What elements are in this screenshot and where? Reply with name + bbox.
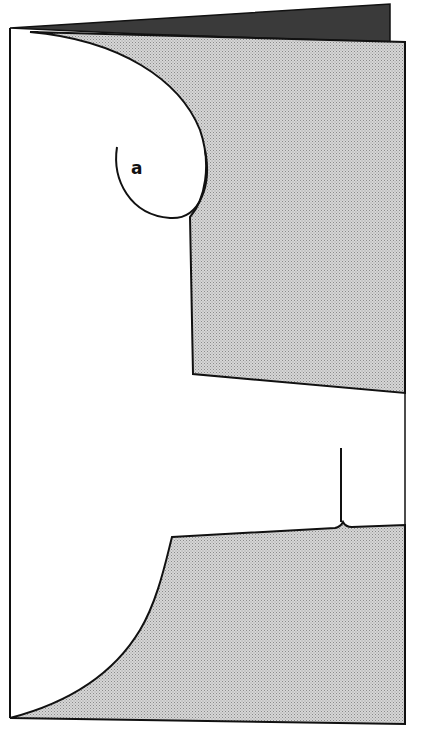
label-a: a — [131, 158, 142, 178]
back-panel-lower-shaded — [10, 522, 405, 724]
back-panel-upper-shaded — [30, 32, 405, 393]
head-cutout-curve — [116, 147, 207, 218]
folded-card-diagram: a — [0, 0, 422, 732]
